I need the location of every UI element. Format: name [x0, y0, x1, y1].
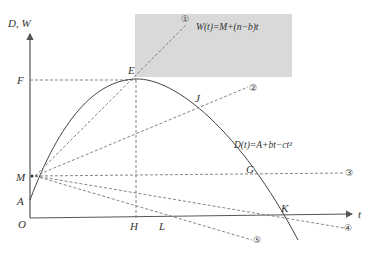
d-formula: D(t)=A+bt−ct² — [233, 140, 292, 151]
marker-2: ② — [249, 83, 257, 93]
line-4 — [35, 176, 344, 228]
point-l-label: L — [158, 220, 165, 232]
point-h-label: H — [129, 220, 139, 232]
point-a-label: A — [16, 195, 24, 207]
marker-5: ⑤ — [253, 235, 261, 245]
point-j-label: J — [195, 92, 201, 104]
marker-3: ③ — [345, 168, 353, 178]
m-point — [31, 175, 34, 178]
marker-1: ① — [181, 14, 189, 24]
x-axis — [30, 214, 352, 218]
line-3 — [35, 173, 344, 176]
point-m-label: M — [15, 171, 26, 183]
point-e-label: E — [127, 64, 135, 76]
line-2 — [35, 87, 248, 176]
point-g-label: G — [246, 163, 254, 175]
marker-4: ④ — [344, 223, 352, 233]
w-formula: W(t)=M+(n−b)t — [196, 22, 259, 33]
diagram-canvas: D, W t O F M A H L K E J G W(t)=M+(n−b)t… — [0, 0, 376, 259]
point-f-label: F — [16, 74, 24, 86]
y-axis-label: D, W — [7, 17, 31, 29]
x-axis-label: t — [358, 208, 362, 220]
origin-label: O — [18, 218, 26, 230]
point-k-label: K — [280, 202, 289, 214]
line-5 — [35, 176, 252, 240]
line-1 — [35, 25, 186, 176]
